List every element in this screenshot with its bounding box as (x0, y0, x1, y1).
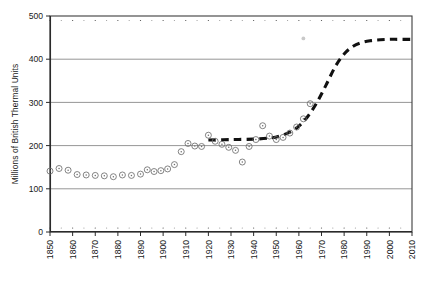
x-tick-label-1870: 1870 (90, 240, 100, 259)
interior-tick-dot (253, 227, 254, 228)
x-tick-label-1980: 1980 (339, 240, 349, 259)
marker-center-dot (296, 126, 298, 128)
y-tick-label-100: 100 (29, 184, 44, 194)
interior-tick-dot (174, 227, 175, 228)
marker-center-dot (76, 174, 78, 176)
interior-tick-dot (208, 20, 209, 21)
interior-tick-dot (196, 227, 197, 228)
marker-center-dot (174, 164, 176, 166)
marker-center-dot (289, 132, 291, 134)
marker-center-dot (255, 139, 257, 141)
x-tick-label-1940: 1940 (249, 240, 259, 259)
interior-tick-dot (129, 20, 130, 21)
energy-use-scatter-chart: 0100200300400500 18501860187018801890190… (0, 0, 432, 282)
marker-center-dot (113, 176, 115, 178)
x-tick-label-1950: 1950 (271, 240, 281, 259)
interior-tick-dot (344, 20, 345, 21)
x-tick-label-1970: 1970 (317, 240, 327, 259)
y-tick-label-300: 300 (29, 98, 44, 108)
interior-tick-dot (377, 227, 378, 228)
marker-center-dot (85, 174, 87, 176)
y-tick-label-200: 200 (29, 141, 44, 151)
x-tick-label-1920: 1920 (204, 240, 214, 259)
y-tick-label-400: 400 (29, 54, 44, 64)
interior-tick-dot (355, 20, 356, 21)
marker-center-dot (235, 150, 237, 152)
marker-center-dot (242, 161, 244, 163)
interior-tick-dot (95, 20, 96, 21)
marker-center-dot (131, 175, 133, 177)
marker-center-dot (221, 144, 223, 146)
stray-annotation-marks (302, 37, 306, 41)
marker-center-dot (187, 143, 189, 145)
interior-tick-dot (400, 20, 401, 21)
interior-tick-dot (276, 227, 277, 228)
x-tick-label-2010: 2010 (407, 240, 417, 259)
marker-center-dot (180, 151, 182, 153)
marker-center-dot (208, 134, 210, 136)
interior-tick-dot (219, 20, 220, 21)
interior-tick-dot (355, 227, 356, 228)
marker-center-dot (303, 118, 305, 120)
marker-center-dot (248, 146, 250, 148)
x-tick-label-1990: 1990 (362, 240, 372, 259)
interior-tick-dot (106, 20, 107, 21)
x-tick-label-2000: 2000 (385, 240, 395, 259)
marker-center-dot (147, 169, 149, 171)
marker-center-dot (262, 125, 264, 127)
interior-tick-dot (174, 20, 175, 21)
interior-tick-dot (95, 227, 96, 228)
marker-center-dot (276, 139, 278, 141)
interior-tick-dot (264, 20, 265, 21)
marker-center-dot (49, 170, 51, 172)
interior-tick-dot (151, 227, 152, 228)
interior-tick-dot (298, 20, 299, 21)
stray-mark (302, 37, 306, 41)
interior-tick-dot (61, 20, 62, 21)
marker-center-dot (67, 169, 69, 171)
marker-center-dot (140, 173, 142, 175)
interior-tick-dot (163, 20, 164, 21)
marker-center-dot (167, 168, 169, 170)
x-tick-label-1850: 1850 (45, 240, 55, 259)
interior-tick-dot (72, 227, 73, 228)
interior-tick-dot (321, 227, 322, 228)
interior-tick-dot (185, 227, 186, 228)
marker-center-dot (95, 175, 97, 177)
interior-tick-dot (117, 20, 118, 21)
marker-center-dot (269, 135, 271, 137)
interior-tick-dot (61, 227, 62, 228)
interior-tick-dot (389, 227, 390, 228)
interior-tick-dot (117, 227, 118, 228)
x-tick-label-1880: 1880 (113, 240, 123, 259)
marker-center-dot (104, 175, 106, 177)
y-tick-label-0: 0 (38, 227, 43, 237)
y-axis-ticks: 0100200300400500 (29, 11, 50, 237)
interior-tick-dot (72, 20, 73, 21)
interior-tick-dot (377, 20, 378, 21)
interior-tick-dot (321, 20, 322, 21)
interior-tick-dot (163, 227, 164, 228)
marker-center-dot (309, 103, 311, 105)
marker-center-dot (228, 147, 230, 149)
interior-tick-dot (287, 20, 288, 21)
marker-center-dot (160, 170, 162, 172)
interior-tick-dot (366, 227, 367, 228)
interior-tick-dot (332, 227, 333, 228)
plot-area-background (50, 16, 412, 232)
interior-tick-dot (242, 20, 243, 21)
x-tick-label-1930: 1930 (226, 240, 236, 259)
y-tick-label-500: 500 (29, 11, 44, 21)
x-tick-label-1910: 1910 (181, 240, 191, 259)
x-tick-label-1960: 1960 (294, 240, 304, 259)
interior-tick-dot (129, 227, 130, 228)
interior-tick-dot (366, 20, 367, 21)
interior-tick-dot (83, 227, 84, 228)
marker-center-dot (201, 146, 203, 148)
interior-tick-dot (140, 227, 141, 228)
interior-tick-dot (344, 227, 345, 228)
interior-tick-dot (230, 20, 231, 21)
x-tick-label-1860: 1860 (68, 240, 78, 259)
marker-center-dot (194, 145, 196, 147)
interior-tick-dot (185, 20, 186, 21)
